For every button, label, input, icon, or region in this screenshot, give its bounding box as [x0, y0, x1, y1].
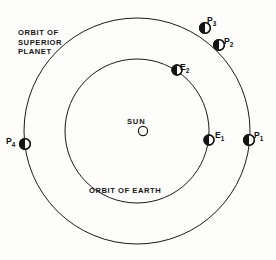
- body-label-p1-sub: 1: [260, 135, 264, 142]
- body-label-e1: E1: [215, 131, 224, 142]
- body-marker-p4: [20, 139, 31, 150]
- body-label-e2: E2: [180, 63, 189, 74]
- body-label-p2-sub: 2: [230, 41, 234, 48]
- sun-label: SUN: [127, 117, 145, 127]
- sun-marker: [138, 126, 147, 135]
- body-label-e1-sub: 1: [221, 135, 225, 142]
- body-label-p4-sub: 4: [12, 141, 16, 148]
- body-marker-p1: [244, 135, 255, 146]
- body-label-p1: P1: [254, 131, 263, 142]
- orbit-diagram: ORBIT OF SUPERIOR PLANET ORBIT OF EARTH …: [0, 0, 276, 260]
- body-label-p3-sub: 3: [213, 20, 217, 27]
- superior-orbit-label: ORBIT OF SUPERIOR PLANET: [18, 28, 62, 57]
- body-label-p2: P2: [224, 37, 233, 48]
- inner-orbit-path: [65, 59, 209, 203]
- body-marker-p2: [214, 40, 225, 51]
- body-label-e2-sub: 2: [186, 67, 190, 74]
- body-marker-e1: [204, 135, 214, 145]
- body-label-p3: P3: [207, 16, 216, 27]
- earth-orbit-label: ORBIT OF EARTH: [89, 186, 161, 196]
- body-label-p4: P4: [6, 137, 15, 148]
